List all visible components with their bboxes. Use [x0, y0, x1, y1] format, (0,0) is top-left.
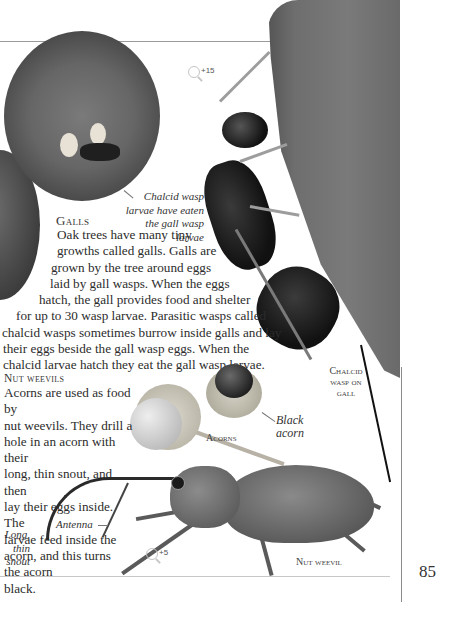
nut-weevil-label: Nut weevil [296, 556, 342, 567]
galls-paragraph: Oak trees have many tiny growths called … [0, 227, 300, 374]
weevil-abdomen-image [224, 465, 374, 543]
magnifier-icon [146, 548, 158, 560]
black-acorn-image [215, 364, 253, 398]
acorns-label: Acorns [206, 432, 237, 443]
acorn-image [130, 398, 182, 450]
snout-label: Long, thin snout [4, 528, 30, 569]
weevil-eye [171, 476, 185, 490]
cavity-shape [80, 143, 120, 161]
magnification-indicator-weevil: +5 [146, 548, 168, 560]
antenna-label: Antenna [56, 518, 93, 532]
antenna-pointer [98, 525, 108, 526]
larva-shape [90, 123, 106, 145]
magnifier-icon [188, 66, 200, 78]
right-rule [401, 367, 402, 602]
nut-weevils-heading: Nut weevils [4, 372, 64, 384]
black-acorn-pointer [262, 412, 276, 422]
page-number: 85 [419, 562, 436, 582]
wasp-antenna [219, 51, 271, 103]
gall-cross-section-image [4, 31, 160, 201]
magnification-indicator-galls: +15 [188, 66, 215, 78]
chalcid-wasp-label: Chalcid wasp on gall [318, 365, 374, 398]
weevil-thorax-image [170, 466, 240, 528]
wasp-head-image [222, 112, 268, 148]
black-acorn-caption: Black acorn [276, 414, 304, 440]
larva-shape [60, 133, 78, 157]
